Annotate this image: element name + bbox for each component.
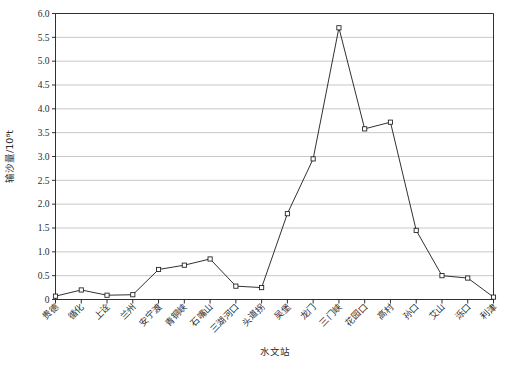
y-axis-title: 输沙量/10⁸t	[4, 130, 15, 183]
data-point-marker	[182, 263, 186, 267]
y-axis-tick-label: 1.5	[38, 223, 50, 233]
data-point-marker	[440, 274, 444, 278]
chart-svg: 00.51.01.52.02.53.03.54.04.55.05.56.0 贵德…	[0, 0, 516, 367]
y-axis-tick-label: 3.5	[38, 128, 50, 138]
y-axis-tick-label: 5.5	[38, 33, 50, 43]
data-point-marker	[491, 295, 495, 299]
data-point-marker	[79, 288, 83, 292]
y-axis-tick-label: 2.0	[38, 199, 50, 209]
data-point-marker	[363, 127, 367, 131]
sediment-transport-line-chart: 00.51.01.52.02.53.03.54.04.55.05.56.0 贵德…	[0, 0, 516, 367]
data-point-marker	[234, 284, 238, 288]
y-axis-tick-label: 4.0	[38, 104, 50, 114]
data-point-marker	[53, 294, 57, 298]
data-point-marker	[285, 212, 289, 216]
data-point-marker	[337, 26, 341, 30]
data-point-marker	[105, 293, 109, 297]
data-point-marker	[311, 157, 315, 161]
data-point-marker	[466, 276, 470, 280]
data-point-marker	[156, 267, 160, 271]
y-axis-tick-label: 0	[45, 295, 50, 305]
y-axis-tick-label: 4.5	[38, 80, 50, 90]
y-axis-tick-label: 0.5	[38, 271, 50, 281]
data-point-marker	[388, 120, 392, 124]
y-axis-tick-label: 5.0	[38, 56, 50, 66]
data-point-marker	[260, 285, 264, 289]
y-axis-tick-label: 6.0	[38, 9, 50, 19]
y-axis-tick-label: 3.0	[38, 152, 50, 162]
data-point-marker	[208, 257, 212, 261]
data-point-marker	[131, 293, 135, 297]
y-axis-tick-label: 2.5	[38, 176, 50, 186]
data-point-marker	[414, 228, 418, 232]
x-axis-title: 水文站	[260, 346, 290, 357]
y-axis-tick-label: 1.0	[38, 247, 50, 257]
